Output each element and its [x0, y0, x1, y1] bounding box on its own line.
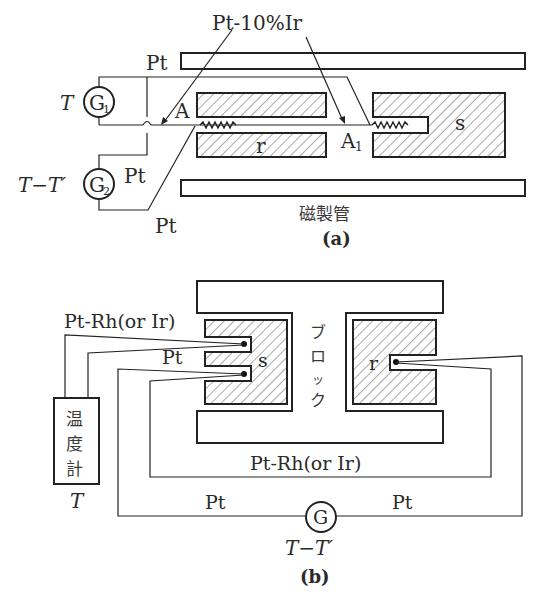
g1-sub: 1 — [103, 103, 110, 116]
label-pt-top: Pt — [146, 51, 168, 75]
label-block-1: ブ — [310, 323, 326, 342]
galvanometer-letter: G — [313, 506, 328, 528]
tube-wall-top — [181, 53, 525, 69]
label-ceramic-tube: 磁製管 — [299, 204, 350, 224]
label-ptrh-bottom: Pt-Rh(or Ir) — [250, 452, 361, 474]
label-junction-a: A — [174, 99, 190, 123]
coil-a1 — [372, 122, 408, 128]
caption-b: (b) — [300, 566, 330, 587]
label-junction-a1: A — [340, 129, 356, 153]
thermal-analysis-diagram: Pt-10%Ir Pt Pt Pt A A 1 r s 磁製管 (a) G 1 … — [0, 0, 539, 604]
caption-a: (a) — [322, 228, 351, 249]
wire-crossover-hop — [143, 122, 151, 126]
label-ptrh-top: Pt-Rh(or Ir) — [64, 310, 175, 332]
label-sample-r: r — [369, 352, 379, 374]
label-pt-bottom: Pt — [155, 214, 177, 238]
label-sample-s: s — [455, 111, 465, 135]
figure-a-labels: Pt-10%Ir Pt Pt Pt A A 1 r s 磁製管 (a) G 1 … — [18, 11, 465, 249]
reference-block-r-top — [197, 93, 326, 117]
label-pt-left: Pt — [205, 491, 226, 513]
label-pt-10-ir: Pt-10%Ir — [212, 11, 303, 35]
label-pt-mid: Pt — [124, 164, 146, 188]
g2-sub: 2 — [103, 185, 110, 198]
thermometer-reading: T — [70, 489, 85, 513]
g1-reading: T — [60, 91, 75, 115]
sample-block-s — [373, 93, 505, 157]
label-pt-upper: Pt — [162, 346, 183, 368]
thermometer-char-1: 温 — [66, 409, 83, 429]
label-junction-a1-sub: 1 — [355, 140, 363, 154]
thermometer-char-2: 度 — [66, 434, 83, 454]
label-sample-s: s — [258, 349, 268, 371]
g2-reading: T−T′ — [18, 173, 66, 197]
tube-wall-bottom — [181, 180, 525, 196]
label-pt-right: Pt — [392, 491, 413, 513]
thermometer-char-3: 計 — [66, 459, 83, 479]
label-block-2: ロ — [310, 347, 326, 366]
galvanometer-reading: T−T′ — [285, 536, 333, 560]
sample-block-s — [205, 320, 287, 404]
label-block-4: ク — [310, 391, 326, 410]
label-sample-r: r — [256, 134, 266, 158]
label-block-3: ッ — [312, 373, 324, 387]
